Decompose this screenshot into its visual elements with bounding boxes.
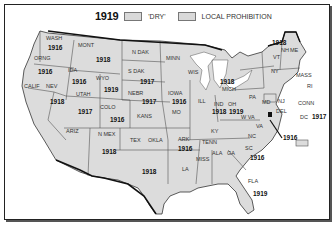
us-map: WASH1916 ORNG1916 CALIF IDA1916 NEV1918 … — [0, 0, 335, 225]
us-landmass — [22, 31, 306, 214]
svg-text:IND: IND — [214, 101, 224, 107]
svg-text:KANS: KANS — [137, 113, 152, 119]
svg-text:NEBR: NEBR — [128, 90, 143, 96]
svg-text:1918: 1918 — [272, 39, 287, 46]
svg-text:ORNG: ORNG — [34, 55, 51, 61]
svg-text:GA: GA — [227, 150, 235, 156]
svg-text:1917: 1917 — [142, 98, 157, 105]
svg-text:1918: 1918 — [50, 98, 65, 105]
svg-text:MICH: MICH — [222, 86, 236, 92]
dc-inset — [296, 140, 308, 146]
svg-text:1917: 1917 — [312, 113, 327, 120]
svg-text:OKLA: OKLA — [148, 137, 163, 143]
svg-text:N DAK: N DAK — [132, 49, 149, 55]
svg-text:NC: NC — [248, 133, 256, 139]
svg-text:1918: 1918 — [220, 78, 235, 85]
svg-text:TEX: TEX — [130, 137, 141, 143]
svg-text:IOWA: IOWA — [168, 90, 183, 96]
svg-text:1917: 1917 — [78, 108, 93, 115]
svg-text:1917: 1917 — [140, 78, 155, 85]
svg-text:VA: VA — [256, 123, 263, 129]
svg-text:MO: MO — [172, 109, 182, 115]
svg-text:NY: NY — [271, 68, 279, 74]
svg-text:1919: 1919 — [104, 86, 119, 93]
svg-text:1916: 1916 — [72, 78, 87, 85]
svg-text:W VA: W VA — [241, 114, 255, 120]
svg-text:S DAK: S DAK — [128, 68, 145, 74]
svg-text:COLO: COLO — [100, 104, 116, 110]
svg-text:1916: 1916 — [283, 134, 298, 141]
svg-text:1916: 1916 — [178, 145, 193, 152]
svg-text:TENN: TENN — [202, 139, 217, 145]
svg-text:ME: ME — [290, 47, 299, 53]
svg-text:IDA: IDA — [68, 67, 78, 73]
svg-text:FLA: FLA — [248, 178, 258, 184]
svg-text:RI: RI — [307, 83, 313, 89]
svg-text:WASH: WASH — [46, 35, 62, 41]
svg-text:1916: 1916 — [250, 154, 265, 161]
svg-text:NJ: NJ — [278, 98, 285, 104]
svg-text:VT: VT — [273, 54, 281, 60]
svg-text:MONT: MONT — [78, 42, 95, 48]
svg-text:NH: NH — [281, 47, 289, 53]
svg-text:1918: 1918 — [96, 56, 111, 63]
svg-text:WIS: WIS — [188, 69, 199, 75]
dc-marker — [268, 112, 272, 117]
svg-text:N MEX: N MEX — [98, 131, 116, 137]
svg-text:LA: LA — [182, 166, 189, 172]
svg-text:UTAH: UTAH — [76, 91, 91, 97]
svg-text:ALA: ALA — [212, 150, 223, 156]
svg-text:1916: 1916 — [172, 98, 187, 105]
svg-text:MASS: MASS — [296, 72, 312, 78]
svg-text:DC: DC — [300, 114, 308, 120]
svg-text:1916: 1916 — [48, 44, 63, 51]
svg-text:DEL: DEL — [276, 108, 287, 114]
svg-text:WYO: WYO — [96, 75, 110, 81]
svg-text:ILL: ILL — [198, 98, 206, 104]
svg-text:MISS: MISS — [196, 156, 210, 162]
svg-text:1916: 1916 — [110, 116, 125, 123]
svg-text:ARIZ: ARIZ — [66, 128, 79, 134]
svg-text:1918: 1918 — [102, 148, 117, 155]
svg-text:CALIF: CALIF — [24, 83, 40, 89]
svg-text:KY: KY — [211, 128, 219, 134]
svg-text:1919: 1919 — [253, 190, 268, 197]
svg-text:ARK: ARK — [178, 136, 190, 142]
svg-text:NEV: NEV — [46, 83, 58, 89]
svg-text:1918: 1918 — [142, 168, 157, 175]
svg-text:PA: PA — [249, 94, 256, 100]
svg-text:1918: 1918 — [212, 108, 227, 115]
svg-text:CONN: CONN — [298, 100, 314, 106]
svg-text:MD: MD — [262, 99, 271, 105]
svg-text:1916: 1916 — [38, 68, 53, 75]
svg-text:OH: OH — [228, 101, 236, 107]
svg-text:SC: SC — [245, 145, 253, 151]
svg-text:MINN: MINN — [166, 55, 180, 61]
